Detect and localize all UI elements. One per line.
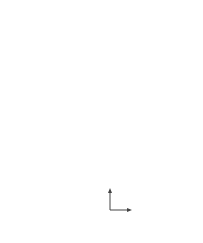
axis-triad [100,180,145,220]
helical-spring-contour [140,8,200,236]
color-legend-bar [18,24,40,222]
axis-arrows-icon [100,180,145,220]
